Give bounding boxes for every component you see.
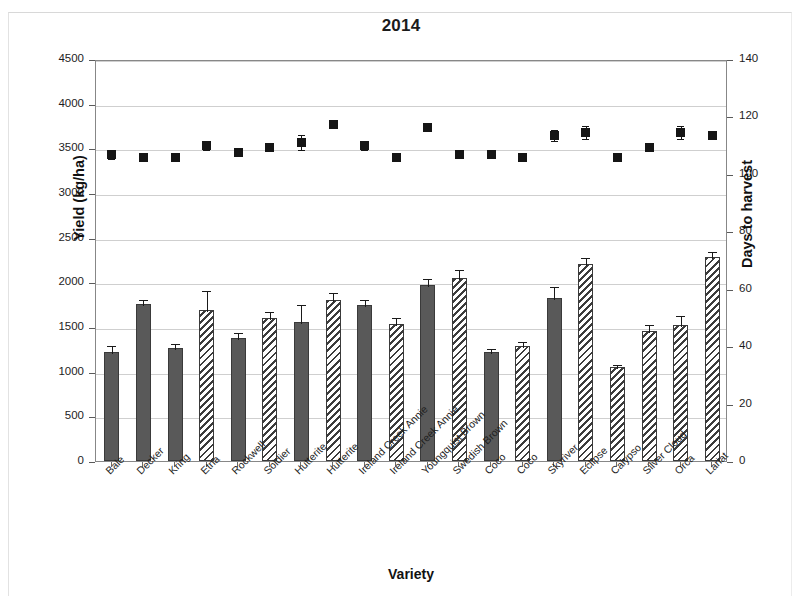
scatter-marker (487, 150, 496, 159)
y-axis-tick-right: 0 (739, 454, 779, 466)
y-axis-tick-mark-left (89, 328, 95, 329)
bar (389, 324, 404, 461)
marker-error-cap (551, 141, 558, 142)
bar-error-bar (396, 318, 397, 326)
bar (294, 322, 309, 461)
y-axis-tick-left: 0 (38, 454, 84, 466)
y-axis-tick-mark-right (727, 60, 733, 61)
x-axis-tick-mark (300, 462, 301, 467)
y-axis-tick-mark-right (727, 175, 733, 176)
scatter-marker (265, 143, 274, 152)
bar (168, 348, 183, 461)
x-axis-tick-mark (364, 462, 365, 467)
scatter-marker (297, 138, 306, 147)
bar (231, 338, 246, 461)
scatter-marker (423, 123, 432, 132)
y-axis-tick-mark-left (89, 373, 95, 374)
marker-error-cap (298, 135, 305, 136)
scatter-marker (329, 120, 338, 129)
y-axis-tick-left: 1000 (38, 365, 84, 377)
y-axis-tick-left: 500 (38, 409, 84, 421)
bar (199, 310, 214, 461)
bar-error-cap (518, 342, 527, 343)
bar-error-cap (171, 344, 180, 345)
y-axis-tick-left: 4500 (38, 52, 84, 64)
y-axis-tick-mark-left (89, 149, 95, 150)
bar-error-bar (238, 333, 239, 340)
bar (642, 331, 657, 461)
gridline (96, 240, 726, 241)
scatter-marker (455, 150, 464, 159)
marker-error-cap (108, 159, 115, 160)
bar-error-cap (234, 333, 243, 334)
x-axis-tick-mark (206, 462, 207, 467)
scatter-marker (392, 153, 401, 162)
y-axis-tick-mark-right (727, 347, 733, 348)
y-axis-tick-mark-left (89, 105, 95, 106)
x-axis-tick-mark (174, 462, 175, 467)
bar-error-cap (487, 349, 496, 350)
bar-error-bar (333, 293, 334, 302)
bar-error-cap (297, 305, 306, 306)
scatter-marker (139, 153, 148, 162)
bar (136, 304, 151, 461)
y-axis-tick-right: 140 (739, 52, 779, 64)
bar (452, 278, 467, 461)
plot-area (95, 60, 727, 462)
bar (262, 318, 277, 461)
y-axis-tick-mark-left (89, 462, 95, 463)
marker-error-cap (361, 150, 368, 151)
bar-error-bar (586, 258, 587, 266)
bar (673, 325, 688, 461)
bar-error-cap (329, 293, 338, 294)
y-axis-tick-left: 4000 (38, 97, 84, 109)
gridline (96, 329, 726, 330)
bar-error-cap (613, 365, 622, 366)
y-axis-tick-mark-left (89, 417, 95, 418)
y-axis-tick-mark-right (727, 117, 733, 118)
bar-error-cap (423, 279, 432, 280)
x-axis-tick-mark (585, 462, 586, 467)
gridline (96, 195, 726, 196)
bar-error-cap (581, 258, 590, 259)
marker-error-cap (298, 150, 305, 151)
bar (547, 298, 562, 461)
bar-error-bar (554, 287, 555, 300)
y-axis-label-right: Days to harvest (739, 119, 755, 309)
y-axis-tick-mark-left (89, 239, 95, 240)
x-axis-tick-mark (616, 462, 617, 467)
bar-error-bar (365, 300, 366, 307)
scatter-marker (708, 131, 717, 140)
bar-error-cap (455, 270, 464, 271)
bar-error-bar (301, 305, 302, 324)
y-axis-tick-left: 1500 (38, 320, 84, 332)
bar-error-bar (112, 346, 113, 354)
bar (326, 300, 341, 461)
chart-figure: 2014 45004000350030002500200015001000500… (0, 0, 802, 601)
y-axis-tick-mark-left (89, 60, 95, 61)
x-axis-tick-mark (142, 462, 143, 467)
x-axis-tick-mark (269, 462, 270, 467)
x-axis-tick-mark (427, 462, 428, 467)
bar (578, 264, 593, 461)
bar-error-bar (523, 342, 524, 349)
y-axis-tick-mark-right (727, 232, 733, 233)
gridline (96, 284, 726, 285)
scatter-marker (234, 148, 243, 157)
bar-error-cap (360, 300, 369, 301)
x-axis-tick-mark (395, 462, 396, 467)
bar-error-cap (139, 300, 148, 301)
x-axis-tick-mark (522, 462, 523, 467)
x-axis-tick-mark (458, 462, 459, 467)
scatter-marker (360, 141, 369, 150)
bar-error-cap (392, 318, 401, 319)
bar-error-bar (207, 291, 208, 312)
bar-error-bar (681, 316, 682, 327)
bar (104, 352, 119, 461)
y-axis-tick-right: 40 (739, 339, 779, 351)
bar-error-bar (459, 270, 460, 280)
chart-title: 2014 (0, 16, 802, 36)
bar (484, 352, 499, 461)
scatter-marker (550, 131, 559, 140)
scatter-marker (107, 150, 116, 159)
